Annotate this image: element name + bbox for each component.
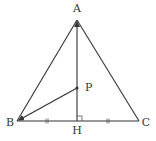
label-a: A [72, 2, 82, 15]
right-angle-mark [77, 116, 82, 121]
label-b: B [6, 116, 14, 129]
label-c: C [142, 116, 150, 129]
side-ab [17, 20, 77, 121]
side-ac [77, 20, 139, 121]
point-p-dot [75, 86, 78, 89]
label-h: H [72, 124, 82, 137]
geometry-diagram: A B C H P [0, 0, 156, 141]
triangle-figure: A B C H P [0, 0, 156, 141]
label-p: P [85, 81, 93, 94]
